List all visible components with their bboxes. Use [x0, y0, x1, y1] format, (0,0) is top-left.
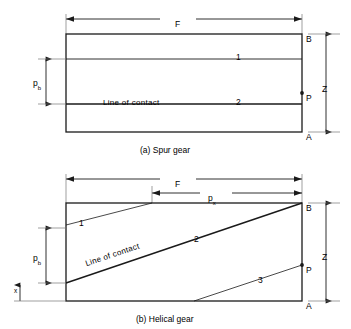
spur-line-2-number: 2 — [236, 97, 241, 107]
helical-pitch-point-marker — [300, 263, 304, 267]
helical-line-3-number: 3 — [258, 275, 263, 285]
helical-gear-panel — [14, 174, 340, 301]
spur-point-p-label: P — [306, 93, 312, 103]
spur-point-a-label: A — [306, 132, 312, 142]
helical-x-axis-indicator — [14, 285, 66, 301]
spur-base-pitch-subscript: b — [38, 85, 41, 91]
spur-line-of-contact-text: Line of contact — [103, 98, 160, 107]
spur-gear-panel — [38, 14, 340, 132]
helical-base-pitch-dimension — [38, 228, 66, 283]
helical-point-a-label: A — [306, 301, 312, 311]
gear-contact-line-figure: F pb Z B P A 1 2 Line of contact (a) Spu… — [0, 0, 351, 329]
helical-point-b-label: B — [306, 203, 312, 213]
helical-base-pitch-subscript: b — [38, 260, 41, 266]
helical-zone-label: Z — [322, 252, 327, 262]
helical-x-axis-label: x — [14, 287, 17, 294]
spur-zone-label: Z — [322, 84, 327, 94]
helical-contact-line-2 — [66, 203, 302, 283]
helical-contact-line-3 — [194, 265, 302, 301]
helical-point-p-label: P — [306, 265, 312, 275]
helical-caption: (b) Helical gear — [136, 314, 194, 324]
helical-line-2-number: 2 — [194, 234, 199, 244]
spur-face-width-label: F — [175, 19, 180, 29]
spur-pitch-point-marker — [300, 91, 304, 95]
spur-line-1-number: 1 — [236, 52, 241, 62]
figure-canvas — [0, 0, 351, 329]
spur-face-width-dimension — [66, 14, 302, 34]
spur-point-b-label: B — [306, 34, 312, 44]
spur-base-pitch-dimension — [38, 59, 66, 104]
helical-face-width-dimension — [66, 174, 302, 203]
spur-face-rectangle — [66, 34, 302, 132]
helical-face-width-label: F — [175, 179, 180, 189]
helical-line-1-number: 1 — [79, 218, 84, 228]
helical-axial-pitch-subscript: x — [213, 200, 216, 206]
spur-caption: (a) Spur gear — [140, 145, 190, 155]
